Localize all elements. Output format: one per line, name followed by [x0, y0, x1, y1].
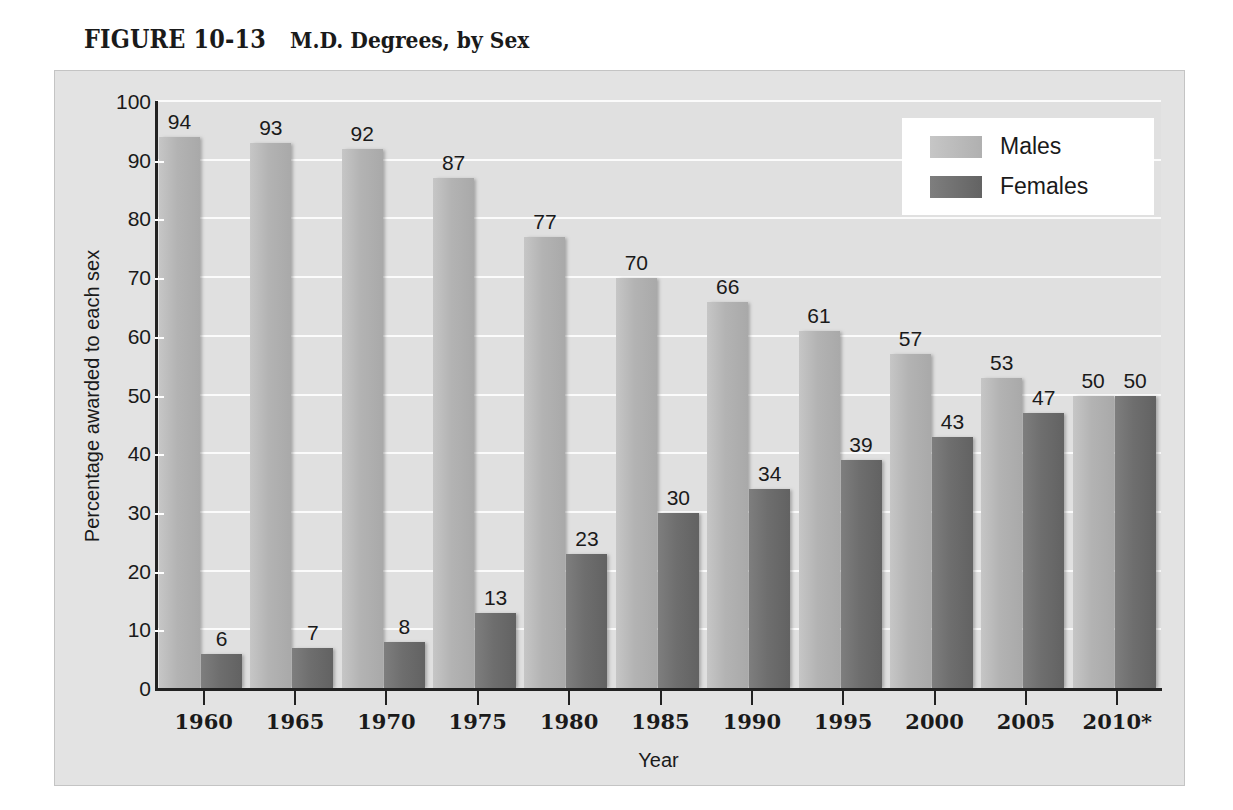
bar-female-1960[interactable]: 6 — [201, 654, 242, 689]
y-axis-tick-mark — [155, 513, 164, 515]
x-axis-tick-mark — [660, 691, 662, 705]
bar-female-1980[interactable]: 23 — [566, 554, 607, 689]
bar-male-1965[interactable]: 93 — [250, 143, 291, 689]
figure-name: M.D. Degrees, by Sex — [290, 26, 529, 53]
x-axis-tick-label-1990: 1990 — [723, 709, 781, 734]
x-axis-title: Year — [156, 749, 1161, 772]
y-axis-tick-labels: 0102030405060708090100 — [95, 71, 151, 785]
x-axis-tick-label-1980: 1980 — [540, 709, 598, 734]
bar-value-label: 94 — [168, 110, 191, 134]
legend-entry-females: Females — [930, 167, 1154, 207]
bar-group: 7723 — [523, 102, 614, 689]
bar-value-label: 92 — [351, 122, 374, 146]
bar-value-label: 8 — [398, 615, 410, 639]
y-axis-tick-label: 100 — [105, 90, 151, 114]
bar-value-label: 43 — [941, 410, 964, 434]
x-axis-tick-mark — [1025, 691, 1027, 705]
legend-entry-males: Males — [930, 127, 1154, 167]
bar-value-label: 30 — [667, 486, 690, 510]
bar-value-label: 53 — [990, 351, 1013, 375]
x-axis-tick-label-1985: 1985 — [631, 709, 689, 734]
bar-group: 946 — [158, 102, 249, 689]
legend-label-males: Males — [1000, 133, 1061, 160]
bar-group: 937 — [249, 102, 340, 689]
x-axis-tick-labels: 1960196519701975198019851990199520002005… — [156, 691, 1161, 751]
y-axis-tick-label: 20 — [105, 560, 151, 584]
bar-male-1995[interactable]: 61 — [799, 331, 840, 689]
bar-group: 6634 — [706, 102, 797, 689]
x-axis-tick-mark — [203, 691, 205, 705]
x-axis-tick-mark — [751, 691, 753, 705]
bar-male-2005[interactable]: 53 — [981, 378, 1022, 689]
female-swatch-icon — [930, 176, 982, 198]
bar-female-1965[interactable]: 7 — [292, 648, 333, 689]
bar-group: 6139 — [798, 102, 889, 689]
bar-value-label: 93 — [259, 116, 282, 140]
bar-male-1975[interactable]: 87 — [433, 178, 474, 689]
bar-male-1980[interactable]: 77 — [524, 237, 565, 689]
bar-value-label: 50 — [1081, 369, 1104, 393]
y-axis-tick-label: 10 — [105, 618, 151, 642]
bar-female-2005[interactable]: 47 — [1023, 413, 1064, 689]
x-axis-tick-mark — [294, 691, 296, 705]
y-axis-tick-mark — [155, 278, 164, 280]
bar-male-1985[interactable]: 70 — [616, 278, 657, 689]
figure-title: FIGURE 10-13 M.D. Degrees, by Sex — [84, 24, 562, 64]
bar-group: 7030 — [615, 102, 706, 689]
bar-value-label: 70 — [625, 251, 648, 275]
bar-value-label: 47 — [1032, 386, 1055, 410]
legend-label-females: Females — [1000, 173, 1088, 200]
x-axis-tick-label-2005: 2005 — [997, 709, 1055, 734]
y-axis-tick-label: 60 — [105, 325, 151, 349]
bar-value-label: 7 — [307, 621, 319, 645]
bar-value-label: 87 — [442, 151, 465, 175]
y-axis-tick-label: 0 — [105, 677, 151, 701]
bar-male-1970[interactable]: 92 — [342, 149, 383, 689]
bar-male-1990[interactable]: 66 — [707, 302, 748, 689]
y-axis-tick-label: 70 — [105, 266, 151, 290]
y-axis-tick-mark — [155, 337, 164, 339]
bar-value-label: 77 — [533, 210, 556, 234]
x-axis-tick-mark — [385, 691, 387, 705]
x-axis-tick-label-1970: 1970 — [357, 709, 415, 734]
x-axis-tick-label-1995: 1995 — [814, 709, 872, 734]
x-axis-tick-label-1975: 1975 — [449, 709, 507, 734]
x-axis-tick-label-1965: 1965 — [266, 709, 324, 734]
figure-panel: Percentage awarded to each sex 010203040… — [54, 70, 1185, 786]
x-axis-tick-label-2000: 2000 — [905, 709, 963, 734]
bar-value-label: 50 — [1123, 369, 1146, 393]
x-axis-tick-mark — [934, 691, 936, 705]
bar-female-2000[interactable]: 43 — [932, 437, 973, 689]
bar-group: 928 — [341, 102, 432, 689]
y-axis-tick-label: 40 — [105, 442, 151, 466]
bar-value-label: 57 — [899, 327, 922, 351]
bar-female-1990[interactable]: 34 — [749, 489, 790, 689]
bar-male-2010[interactable]: 50 — [1073, 396, 1114, 690]
bar-female-1995[interactable]: 39 — [841, 460, 882, 689]
bar-value-label: 6 — [216, 627, 228, 651]
y-axis-tick-mark — [155, 219, 164, 221]
bar-male-2000[interactable]: 57 — [890, 354, 931, 689]
x-axis-tick-label-2010: 2010* — [1083, 709, 1152, 734]
bar-value-label: 23 — [575, 527, 598, 551]
bar-value-label: 39 — [849, 433, 872, 457]
y-axis-tick-label: 30 — [105, 501, 151, 525]
x-axis-tick-mark — [477, 691, 479, 705]
y-axis-tick-label: 80 — [105, 207, 151, 231]
bar-female-1970[interactable]: 8 — [384, 642, 425, 689]
x-axis-tick-mark — [568, 691, 570, 705]
bar-male-1960[interactable]: 94 — [159, 137, 200, 689]
y-axis-tick-mark — [155, 572, 164, 574]
y-axis-tick-mark — [155, 454, 164, 456]
figure-number: FIGURE 10-13 — [84, 24, 266, 54]
bar-group: 8713 — [432, 102, 523, 689]
bar-value-label: 66 — [716, 275, 739, 299]
bar-female-2010[interactable]: 50 — [1115, 396, 1156, 690]
y-axis-tick-mark — [155, 396, 164, 398]
x-axis-tick-mark — [1116, 691, 1118, 705]
y-axis-tick-label: 50 — [105, 384, 151, 408]
male-swatch-icon — [930, 136, 982, 158]
bar-female-1985[interactable]: 30 — [658, 513, 699, 689]
x-axis-tick-mark — [842, 691, 844, 705]
bar-female-1975[interactable]: 13 — [475, 613, 516, 689]
